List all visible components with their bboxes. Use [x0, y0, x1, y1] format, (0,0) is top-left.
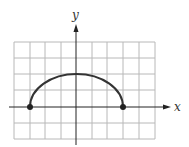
y-axis-arrow-icon — [74, 24, 79, 32]
x-axis — [9, 105, 171, 110]
x-axis-arrow-icon — [163, 105, 171, 110]
x-axis-label: x — [174, 100, 181, 114]
endpoint-right — [120, 104, 126, 110]
endpoint-left — [27, 104, 33, 110]
graph: y x — [0, 0, 189, 147]
y-axis-label: y — [71, 8, 79, 22]
